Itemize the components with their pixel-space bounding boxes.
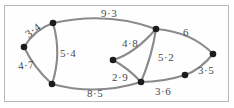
- graph-edge-b-e: [53, 18, 156, 29]
- graph-node-h: [210, 51, 217, 58]
- edge-weight-9-3: 9·3: [101, 8, 117, 19]
- edge-weight-2-9: 2·9: [112, 72, 128, 83]
- diagram-canvas: 3·49·34·75·44·865·23·52·93·68·5: [0, 0, 234, 108]
- edge-weight-3-6: 3·6: [155, 86, 171, 97]
- graph-node-b: [50, 20, 57, 27]
- graph-node-d: [110, 57, 117, 64]
- graph-edge-f-g: [141, 75, 185, 82]
- graph-node-f: [138, 79, 145, 86]
- edge-weight-6: 6: [183, 27, 189, 38]
- graph-node-c: [49, 81, 56, 88]
- graph-node-e: [153, 26, 160, 33]
- edge-weight-4-7: 4·7: [17, 59, 34, 72]
- edge-weight-4-8: 4·8: [122, 38, 138, 49]
- graph-edge-b-c: [52, 23, 57, 84]
- edge-weight-8-5: 8·5: [87, 88, 103, 99]
- edge-weight-3-5: 3·5: [198, 65, 214, 76]
- edge-weight-5-2: 5·2: [158, 52, 174, 63]
- graph-node-a: [21, 44, 28, 51]
- edge-weight-5-4: 5·4: [60, 48, 76, 59]
- graph-node-g: [182, 72, 189, 79]
